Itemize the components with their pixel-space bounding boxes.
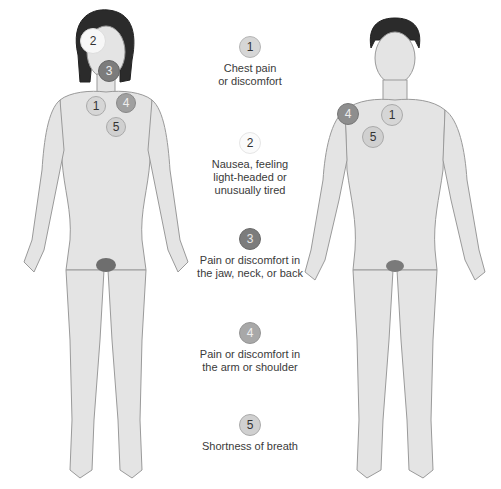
badge-2: 2 — [239, 132, 261, 154]
male-marker-5: 5 — [362, 126, 384, 148]
female-marker-3: 3 — [98, 60, 120, 82]
badge-5: 5 — [239, 414, 261, 436]
female-marker-5: 5 — [106, 117, 126, 137]
badge-3: 3 — [239, 228, 261, 250]
male-marker-1: 1 — [381, 104, 403, 126]
female-marker-1: 1 — [86, 96, 106, 116]
badge-1: 1 — [239, 36, 261, 58]
male-marker-4: 4 — [337, 103, 359, 125]
female-marker-4: 4 — [116, 93, 136, 113]
female-body-figure: 2 3 1 4 5 — [0, 0, 200, 489]
female-marker-2: 2 — [80, 28, 106, 54]
male-body-figure: 4 1 5 — [295, 0, 501, 489]
male-body-illustration — [295, 0, 501, 489]
badge-4: 4 — [239, 322, 261, 344]
